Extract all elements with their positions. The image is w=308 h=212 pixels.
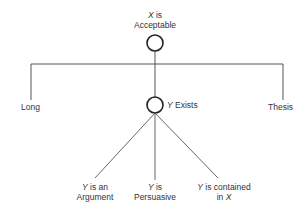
leaf-line-contained: [155, 113, 218, 178]
branch-label-y-exists: Y Exists: [167, 100, 198, 110]
leaf-line-argument: [95, 113, 155, 178]
leaf-label-persuasive: Y is Persuasive: [130, 182, 180, 202]
tree-diagram: [0, 0, 308, 212]
root-label-line2: Acceptable: [125, 20, 185, 30]
root-label-line1: X is: [125, 10, 185, 20]
middle-node-circle: [147, 97, 163, 113]
branch-label-long: Long: [21, 102, 43, 112]
leaf-label-contained: Y is contained in X: [192, 182, 256, 202]
leaf-label-argument: Y is an Argument: [70, 182, 120, 202]
root-node-circle: [147, 35, 163, 51]
branch-label-thesis: Thesis: [268, 102, 300, 112]
root-label: X is Acceptable: [125, 10, 185, 30]
